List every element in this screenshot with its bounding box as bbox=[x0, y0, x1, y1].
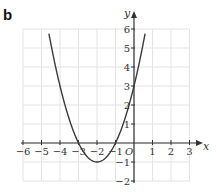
svg-text:−6: −6 bbox=[16, 146, 31, 157]
svg-text:4: 4 bbox=[124, 62, 130, 73]
axes bbox=[21, 11, 203, 183]
x-axis-label: x bbox=[203, 140, 210, 153]
svg-text:−5: −5 bbox=[34, 146, 49, 157]
svg-text:−4: −4 bbox=[53, 146, 68, 157]
y-axis-label: y bbox=[123, 7, 131, 20]
svg-text:2: 2 bbox=[168, 146, 174, 157]
svg-text:−2: −2 bbox=[115, 176, 130, 187]
svg-text:−2: −2 bbox=[90, 146, 105, 157]
svg-text:1: 1 bbox=[149, 146, 155, 157]
svg-text:−1: −1 bbox=[115, 157, 130, 168]
parabola-chart: −6−5−4−3−2−1123−2−1123456 x y O bbox=[0, 0, 216, 192]
svg-text:6: 6 bbox=[124, 24, 130, 35]
origin-label: O bbox=[125, 146, 133, 157]
svg-text:3: 3 bbox=[186, 146, 192, 157]
svg-text:5: 5 bbox=[124, 43, 130, 54]
svg-text:3: 3 bbox=[124, 81, 130, 92]
